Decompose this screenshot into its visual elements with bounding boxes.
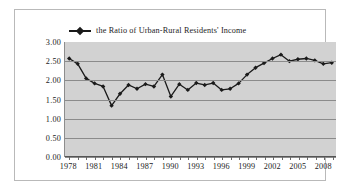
data-point-marker [321, 62, 325, 66]
y-axis-tick-label: 3.00 [17, 38, 61, 47]
x-axis-tick-label: 2005 [289, 162, 306, 171]
x-axis-tick [222, 157, 223, 160]
x-axis-tick [137, 157, 138, 160]
line-diamond-marker-icon [69, 26, 91, 35]
gridline [65, 61, 336, 62]
y-axis-tick-label: 0.00 [17, 153, 61, 162]
x-axis-tick [103, 157, 104, 160]
x-axis-tick [171, 157, 172, 160]
y-axis-tick-label: 1.50 [17, 95, 61, 104]
y-axis-tick-label: 1.00 [17, 114, 61, 123]
x-axis-tick-label: 1984 [111, 162, 128, 171]
x-axis-tick [256, 157, 257, 160]
x-axis-tick [282, 157, 283, 160]
x-axis-tick-label: 1987 [136, 162, 153, 171]
gridline [65, 157, 336, 158]
x-axis-tick [214, 157, 215, 160]
x-axis-tick [197, 157, 198, 160]
x-axis-tick [146, 157, 147, 160]
chart-frame: the Ratio of Urban-Rural Residents' Inco… [14, 9, 326, 181]
x-axis-tick [78, 157, 79, 160]
x-axis-labels: 1978198119841987199019931996199920022005… [64, 162, 336, 178]
x-axis-line [65, 156, 336, 157]
gridline [65, 100, 336, 101]
y-axis-tick-label: 2.00 [17, 76, 61, 85]
chart-legend: the Ratio of Urban-Rural Residents' Inco… [69, 23, 319, 38]
gridline [65, 80, 336, 81]
x-axis-tick [333, 157, 334, 160]
gridline [65, 138, 336, 139]
x-axis-tick [163, 157, 164, 160]
x-axis-tick [120, 157, 121, 160]
x-axis-tick [205, 157, 206, 160]
x-axis-tick [316, 157, 317, 160]
gridline [65, 119, 336, 120]
x-axis-tick [299, 157, 300, 160]
x-axis-tick-label: 1999 [238, 162, 255, 171]
x-axis-tick-label: 1981 [85, 162, 102, 171]
x-axis-tick-label: 1990 [162, 162, 179, 171]
x-axis-tick [188, 157, 189, 160]
x-axis-tick [154, 157, 155, 160]
data-point-marker [304, 56, 308, 60]
x-axis-tick [95, 157, 96, 160]
x-axis-tick [273, 157, 274, 160]
x-axis-tick-label: 2008 [315, 162, 332, 171]
legend-diamond [76, 26, 84, 34]
legend-label: the Ratio of Urban-Rural Residents' Inco… [96, 26, 246, 35]
x-axis-tick [180, 157, 181, 160]
x-axis-tick [265, 157, 266, 160]
y-axis-labels: 3.002.502.001.501.000.500.00 [15, 42, 61, 157]
x-axis-tick [112, 157, 113, 160]
x-axis-tick-label: 2002 [264, 162, 281, 171]
x-axis-tick-label: 1996 [213, 162, 230, 171]
plot-area [64, 42, 336, 157]
data-point-marker [203, 83, 207, 87]
x-axis-tick [324, 157, 325, 160]
x-axis-tick [290, 157, 291, 160]
x-axis-tick [86, 157, 87, 160]
x-axis-tick [231, 157, 232, 160]
x-axis-tick-label: 1993 [187, 162, 204, 171]
y-axis-tick-label: 0.50 [17, 133, 61, 142]
x-axis-tick-label: 1978 [60, 162, 77, 171]
x-axis-tick [239, 157, 240, 160]
x-axis-tick [248, 157, 249, 160]
data-point-marker [101, 84, 105, 88]
x-axis-tick [69, 157, 70, 160]
x-axis-tick [129, 157, 130, 160]
y-axis-tick-label: 2.50 [17, 57, 61, 66]
x-axis-tick [307, 157, 308, 160]
